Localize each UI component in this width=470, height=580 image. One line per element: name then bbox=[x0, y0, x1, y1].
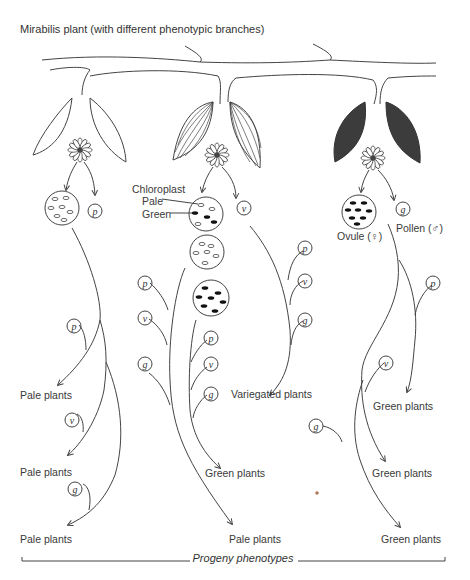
speck bbox=[315, 491, 319, 495]
svg-text:g: g bbox=[73, 484, 78, 495]
pollen-label: Pollen (♂) bbox=[396, 222, 443, 234]
cross-p-pale: p bbox=[67, 319, 81, 333]
footer-text: Progeny phenotypes bbox=[191, 552, 296, 564]
progeny-green-2: Green plants bbox=[372, 467, 432, 479]
cross-v-green: v bbox=[379, 356, 393, 370]
progeny-green-1: Green plants bbox=[373, 400, 433, 412]
green-ovule-branch2 bbox=[193, 280, 229, 316]
cross-p-green: p bbox=[426, 276, 440, 290]
svg-text:v: v bbox=[242, 203, 247, 214]
cross-g-mixed-right: g bbox=[298, 313, 312, 327]
diagram-canvas: p p v g v bbox=[0, 0, 470, 580]
pollen-p-branch1: p bbox=[88, 204, 102, 218]
variegated-flower bbox=[205, 143, 229, 167]
pale-chloroplast-label: Pale bbox=[142, 195, 163, 207]
cross-g-pale: g bbox=[68, 482, 82, 496]
cross-g-mixed-left: g bbox=[138, 357, 152, 371]
svg-text:v: v bbox=[209, 359, 214, 370]
pale-flower bbox=[68, 138, 92, 162]
svg-text:p: p bbox=[208, 333, 214, 344]
cross-v-mixed-mid: v bbox=[204, 357, 218, 371]
progeny-green-mid: Green plants bbox=[205, 467, 265, 479]
svg-text:g: g bbox=[401, 204, 406, 215]
cross-v-mixed-left: v bbox=[138, 311, 152, 325]
green-chloroplast-label: Green bbox=[142, 208, 171, 220]
svg-text:g: g bbox=[143, 359, 148, 370]
cross-g-green: g bbox=[309, 419, 323, 433]
ovule-label: Ovule (♀) bbox=[337, 230, 382, 242]
green-flower bbox=[361, 146, 385, 170]
green-ovule bbox=[342, 195, 376, 229]
cross-p-mixed-left: p bbox=[138, 276, 152, 290]
progeny-pale-2: Pale plants bbox=[20, 466, 72, 478]
cross-p-mixed-right: p bbox=[298, 241, 312, 255]
progeny-pale-mid: Pale plants bbox=[229, 533, 281, 545]
svg-text:p: p bbox=[142, 278, 148, 289]
progeny-pale-1: Pale plants bbox=[20, 389, 72, 401]
pale-ovule-branch2 bbox=[190, 235, 224, 269]
pollen-v-branch2: v bbox=[237, 201, 251, 215]
cross-p-mixed-mid: p bbox=[204, 331, 218, 345]
svg-text:p: p bbox=[71, 321, 77, 332]
svg-text:v: v bbox=[303, 276, 308, 287]
progeny-variegated: Variegated plants bbox=[231, 388, 312, 400]
plant-stem bbox=[42, 44, 436, 104]
progeny-phenotypes-caption: Progeny phenotypes bbox=[0, 552, 470, 564]
svg-text:g: g bbox=[209, 389, 214, 400]
cross-v-pale: v bbox=[65, 413, 79, 427]
svg-text:p: p bbox=[302, 243, 308, 254]
mixed-ovule bbox=[189, 197, 223, 231]
pale-ovule bbox=[45, 191, 79, 225]
svg-text:g: g bbox=[314, 421, 319, 432]
svg-text:v: v bbox=[70, 415, 75, 426]
chloroplast-label: Chloroplast bbox=[132, 183, 185, 195]
svg-text:v: v bbox=[143, 313, 148, 324]
pollen-g-branch3: g bbox=[396, 202, 410, 216]
cross-g-mixed-mid: g bbox=[204, 387, 218, 401]
svg-text:v: v bbox=[384, 358, 389, 369]
svg-text:g: g bbox=[303, 315, 308, 326]
progeny-pale-3: Pale plants bbox=[20, 533, 72, 545]
svg-text:p: p bbox=[92, 206, 98, 217]
svg-text:p: p bbox=[430, 278, 436, 289]
progeny-green-3: Green plants bbox=[381, 533, 441, 545]
cross-v-mixed-right: v bbox=[298, 274, 312, 288]
